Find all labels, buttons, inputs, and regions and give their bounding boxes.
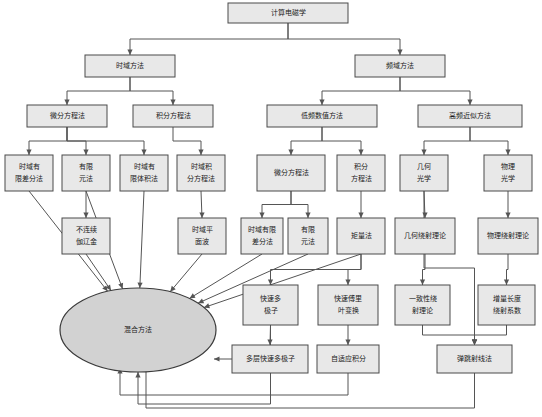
node-label: 物理绕射理论 bbox=[487, 231, 529, 240]
edge-td_int_eq-to-tdie bbox=[173, 127, 204, 155]
node-label: 自适应积分 bbox=[331, 354, 366, 363]
node-label: 限差分法 bbox=[15, 174, 43, 183]
node-label: 频域方法 bbox=[386, 61, 414, 70]
node-dg[interactable]: 不连续伽辽金 bbox=[62, 218, 110, 254]
node-label: 计算电磁学 bbox=[271, 8, 306, 17]
node-fem_td[interactable]: 有限元法 bbox=[62, 155, 110, 191]
node-label: 极子 bbox=[264, 306, 278, 315]
node-lf_int_eq[interactable]: 积分方程法 bbox=[337, 155, 385, 191]
edge-sbr-to-hybrid bbox=[143, 364, 474, 408]
node-label: 差分法 bbox=[252, 237, 273, 246]
node-ildc[interactable]: 增量长度绕射系数 bbox=[478, 285, 535, 325]
node-root[interactable]: 计算电磁学 bbox=[228, 3, 348, 23]
node-td_plane_wave[interactable]: 时域平面波 bbox=[178, 218, 226, 254]
node-label: 弹跳射线法 bbox=[457, 354, 492, 363]
node-label: 叶变换 bbox=[338, 306, 359, 315]
node-label: 绕射系数 bbox=[493, 306, 521, 315]
node-label: 快速多 bbox=[260, 294, 281, 303]
edge-root-to-time_domain bbox=[127, 23, 288, 55]
node-label: 元法 bbox=[301, 237, 315, 246]
node-freq_domain[interactable]: 频域方法 bbox=[355, 55, 445, 77]
node-lf_diff_eq[interactable]: 微分方程法 bbox=[257, 155, 325, 191]
node-geo_optics[interactable]: 几何光学 bbox=[400, 155, 448, 191]
edge-time_domain-to-td_diff_eq bbox=[64, 77, 130, 105]
node-label: 微分方程法 bbox=[50, 111, 85, 120]
node-label: 方程法 bbox=[351, 174, 372, 183]
edge-td_plane_wave-to-hybrid bbox=[170, 254, 202, 292]
node-low_freq[interactable]: 低频数值方法 bbox=[267, 105, 377, 127]
edge-freq_domain-to-high_freq bbox=[400, 77, 473, 105]
node-label: 混合方法 bbox=[124, 325, 152, 334]
node-phys_optics[interactable]: 物理光学 bbox=[484, 155, 532, 191]
node-high_freq[interactable]: 高频近似方法 bbox=[418, 105, 522, 127]
node-time_domain[interactable]: 时域方法 bbox=[85, 55, 175, 77]
node-label: 分方程法 bbox=[187, 174, 215, 183]
flowchart-svg: 计算电磁学时域方法频域方法微分方程法积分方程法低频数值方法高频近似方法时域有限差… bbox=[0, 0, 542, 417]
node-label: 光学 bbox=[417, 174, 431, 183]
node-td_int_eq[interactable]: 积分方程法 bbox=[133, 105, 213, 127]
flowchart-diagram: 计算电磁学时域方法频域方法微分方程法积分方程法低频数值方法高频近似方法时域有限差… bbox=[0, 0, 542, 417]
edge-td_diff_eq-to-fdtd bbox=[26, 127, 67, 155]
edge-high_freq-to-phys_optics bbox=[470, 127, 511, 155]
node-label: 低频数值方法 bbox=[301, 111, 343, 120]
edge-utd-to-sbr bbox=[423, 325, 478, 345]
node-lf_fdtd[interactable]: 时域有限差分法 bbox=[241, 218, 283, 254]
node-label: 增量长度 bbox=[493, 294, 521, 303]
node-td_diff_eq[interactable]: 微分方程法 bbox=[27, 105, 107, 127]
node-fdtd[interactable]: 时域有限差分法 bbox=[5, 155, 53, 191]
edge-fft-to-aim bbox=[345, 325, 350, 345]
edge-root-to-freq_domain bbox=[288, 23, 403, 55]
node-label: 时域积 bbox=[191, 162, 212, 171]
edge-ptd-to-ildc bbox=[504, 254, 509, 285]
node-mom[interactable]: 矩量法 bbox=[337, 218, 385, 254]
node-label: 不连续 bbox=[76, 225, 97, 234]
edge-ildc-to-sbr bbox=[472, 325, 507, 345]
node-label: 矩量法 bbox=[351, 231, 372, 240]
node-label: 快速傅里 bbox=[334, 294, 362, 303]
node-label: 时域方法 bbox=[116, 61, 144, 70]
node-sbr[interactable]: 弹跳射线法 bbox=[437, 345, 512, 373]
node-label: 面波 bbox=[195, 237, 209, 246]
node-label: 时域有 bbox=[19, 162, 40, 171]
edge-low_freq-to-lf_diff_eq bbox=[288, 127, 322, 155]
node-mlfma[interactable]: 多层快速多极子 bbox=[232, 345, 308, 373]
node-label: 伽辽金 bbox=[76, 237, 97, 246]
node-utd[interactable]: 一致性绕射理论 bbox=[395, 285, 450, 325]
node-fft[interactable]: 快速傅里叶变换 bbox=[318, 285, 378, 325]
node-label: 几何绕射理论 bbox=[404, 231, 446, 240]
node-layer: 计算电磁学时域方法频域方法微分方程法积分方程法低频数值方法高频近似方法时域有限差… bbox=[5, 3, 538, 373]
node-label: 限体积法 bbox=[130, 174, 158, 183]
edge-high_freq-to-geo_optics bbox=[421, 127, 470, 155]
edge-lf_int_eq-to-mom bbox=[358, 191, 363, 218]
node-fmm[interactable]: 快速多极子 bbox=[243, 285, 298, 325]
node-fvtd[interactable]: 时域有限体积法 bbox=[120, 155, 168, 191]
node-label: 几何 bbox=[417, 162, 431, 171]
node-label: 射理论 bbox=[412, 306, 433, 315]
edge-dg-to-hybrid bbox=[86, 254, 111, 291]
edge-tdie-to-td_plane_wave bbox=[199, 191, 204, 218]
node-tdie[interactable]: 时域积分方程法 bbox=[177, 155, 225, 191]
edge-lf_diff_eq-to-lf_fdtd bbox=[259, 191, 291, 218]
edge-lf_diff_eq-to-lf_fem bbox=[291, 191, 311, 218]
edge-low_freq-to-lf_int_eq bbox=[322, 127, 364, 155]
node-label: 积分方程法 bbox=[156, 111, 191, 120]
edge-mlfma-to-hybrid bbox=[214, 356, 232, 361]
node-label: 时域平 bbox=[192, 225, 213, 234]
node-label: 物理 bbox=[501, 162, 515, 171]
node-label: 积分 bbox=[354, 162, 368, 171]
node-label: 有限 bbox=[301, 225, 315, 234]
node-label: 元法 bbox=[79, 174, 93, 183]
node-lf_fem[interactable]: 有限元法 bbox=[288, 218, 328, 254]
node-aim[interactable]: 自适应积分 bbox=[317, 345, 379, 373]
node-label: 时域有 bbox=[134, 162, 155, 171]
node-ptd[interactable]: 物理绕射理论 bbox=[478, 218, 538, 254]
node-label: 光学 bbox=[501, 174, 515, 183]
edge-freq_domain-to-low_freq bbox=[319, 77, 400, 105]
edge-phys_optics-to-ptd bbox=[505, 191, 510, 218]
node-hybrid[interactable]: 混合方法 bbox=[60, 288, 216, 372]
node-gtd[interactable]: 几何绕射理论 bbox=[395, 218, 455, 254]
node-label: 高频近似方法 bbox=[449, 111, 491, 120]
node-label: 有限 bbox=[79, 162, 93, 171]
edge-geo_optics-to-gtd bbox=[422, 191, 427, 218]
node-label: 一致性绕 bbox=[409, 294, 437, 303]
